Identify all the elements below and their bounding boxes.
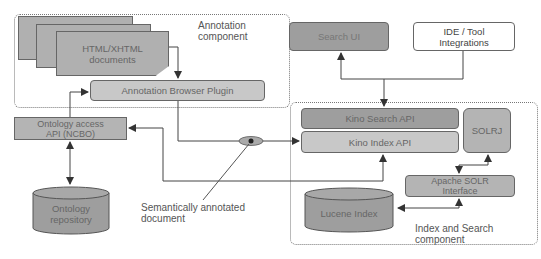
lucene-index-label: Lucene Index — [320, 208, 377, 219]
semantic-label-line1: Semantically annotated — [141, 202, 271, 213]
semantic-document-label: Semantically annotated document — [141, 202, 271, 224]
ontology-repo-line1: Ontology — [50, 203, 92, 214]
lucene-index: Lucene Index — [305, 201, 393, 225]
arrow-ui-to-kino-search — [341, 51, 463, 106]
ontology-repository: Ontology repository — [33, 200, 109, 228]
semantic-label-line2: document — [141, 213, 271, 224]
arrow-kino-to-ontology-api — [129, 128, 383, 181]
semantic-document-token-icon — [239, 137, 263, 146]
arrow-ontology-api-to-plugin — [70, 92, 88, 117]
arrow-documents-to-plugin — [169, 47, 178, 78]
arrow-solrj-apache-solr — [459, 155, 488, 173]
arrow-plugin-to-kino-index — [178, 101, 299, 141]
ontology-repo-line2: repository — [50, 214, 92, 225]
arrow-apache-solr-lucene — [398, 199, 459, 208]
semantic-document-leader — [203, 144, 249, 200]
